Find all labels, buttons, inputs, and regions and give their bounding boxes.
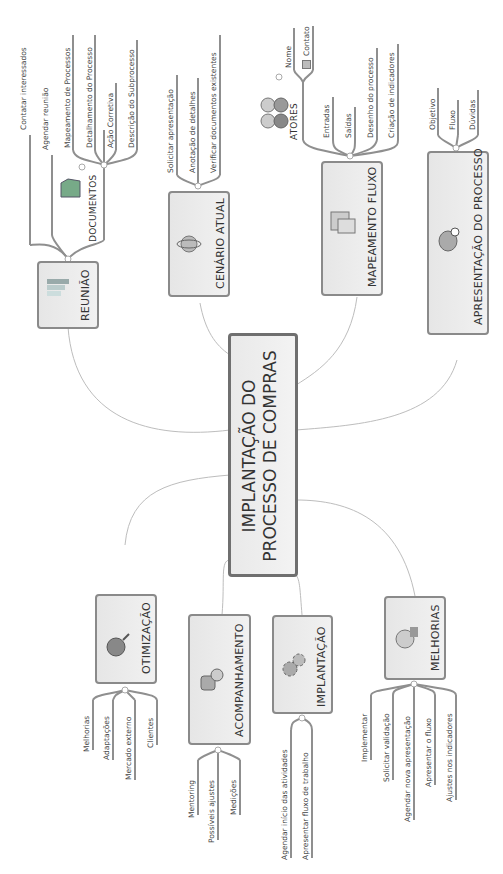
- magnifier-icon: [105, 632, 131, 658]
- subtopic-apresentar-o-fluxo[interactable]: Apresentar o fluxo: [424, 718, 433, 787]
- calendar-icon: [329, 209, 357, 237]
- topic-title: MELHORIAS: [429, 604, 442, 671]
- subtopic-verificar-documentos[interactable]: Verificar documentos existentes: [209, 52, 218, 173]
- subtopic-agendar-nova-apresentacao[interactable]: Agendar nova apresentação: [403, 716, 412, 822]
- folder-icon: [58, 175, 84, 201]
- subtopic-apresentar-fluxo-trabalho[interactable]: Apresentar fluxo de trabalho: [301, 752, 310, 860]
- topic-acompanhamento[interactable]: ACOMPANHAMENTO: [188, 614, 251, 745]
- subtopic-objetivo[interactable]: Objetivo: [428, 99, 437, 130]
- topic-otimizacao[interactable]: OTIMIZAÇÃO: [95, 594, 157, 684]
- subtopic-mentoring[interactable]: Mentoring: [187, 780, 196, 818]
- subtopic-criacao-indicadores[interactable]: Criação de indicadores: [387, 52, 396, 138]
- topic-title: ACOMPANHAMENTO: [233, 624, 246, 738]
- subtopic-clientes[interactable]: Clientes: [146, 718, 155, 748]
- subtopic-agendar-inicio[interactable]: Agendar início das atividades: [280, 749, 289, 860]
- subtopic-mercado-externo[interactable]: Mercado externo: [124, 717, 133, 780]
- subtopic-documentos[interactable]: DOCUMENTOS: [88, 175, 98, 242]
- topic-title: MAPEAMENTO FLUXO: [366, 167, 379, 287]
- central-topic-line2: PROCESSO DE COMPRAS: [260, 346, 281, 566]
- topic-implantacao[interactable]: IMPLANTAÇÃO: [272, 615, 333, 714]
- subtopic-fluxo[interactable]: Fluxo: [448, 110, 457, 130]
- subtopic-anotacao-detalhes[interactable]: Anotação de detalhes: [188, 91, 197, 173]
- subtopic-entradas[interactable]: Entradas: [322, 105, 331, 138]
- subtopic-implementar[interactable]: Implementar: [360, 714, 369, 762]
- topic-title: CENÁRIO ATUAL: [214, 198, 227, 289]
- central-topic-line1: IMPLANTAÇÃO DO: [239, 346, 260, 566]
- topic-title: IMPLANTAÇÃO: [315, 626, 328, 707]
- subtopic-melhorias[interactable]: Melhorias: [82, 716, 91, 752]
- topic-cenario-atual[interactable]: CENÁRIO ATUAL: [168, 191, 230, 297]
- subtopic-saidas[interactable]: Saídas: [344, 113, 353, 138]
- subtopic-descricao-subprocesso[interactable]: Descrição do Subprocesso: [127, 49, 136, 148]
- subtopic-detalhamento-processo[interactable]: Detalhamento do Processo: [85, 47, 94, 148]
- topic-title: REUNIÃO: [79, 269, 92, 321]
- topic-title: OTIMIZAÇÃO: [140, 602, 153, 674]
- subtopic-ajustes-indicadores[interactable]: Ajustes nos indicadores: [445, 713, 454, 802]
- gears-icon: [280, 651, 308, 679]
- person-icon: [437, 225, 463, 253]
- subtopic-agendar-reuniao[interactable]: Agendar reunião: [41, 88, 50, 150]
- subtopic-solicitar-validacao[interactable]: Solicitar validação: [382, 713, 391, 782]
- subtopic-contatar-interessados[interactable]: Contatar interessados: [19, 47, 28, 130]
- subtopic-mapeamento-processos[interactable]: Mapeamento de Processos: [63, 48, 72, 148]
- central-topic[interactable]: IMPLANTAÇÃO DO PROCESSO DE COMPRAS: [228, 333, 298, 577]
- subtopic-desenho-processo[interactable]: Desenho do processo: [366, 57, 375, 138]
- subtopic-solicitar-apresentacao[interactable]: Solicitar apresentação: [166, 89, 175, 173]
- subtopic-medicoes[interactable]: Medições: [229, 780, 238, 815]
- topic-melhorias[interactable]: MELHORIAS: [384, 596, 446, 680]
- subtopic-atores[interactable]: ATORES: [289, 103, 299, 140]
- chart-ball-icon: [394, 624, 420, 650]
- globe-icon: [176, 231, 202, 257]
- users-icon: [198, 666, 226, 694]
- people-icon: [260, 95, 290, 131]
- topic-apresentacao-processo[interactable]: APRESENTAÇÃO DO PROCESSO: [427, 151, 489, 335]
- bar-chart-icon: [45, 275, 71, 301]
- subtopic-possiveis-ajustes[interactable]: Possíveis ajustes: [207, 780, 216, 843]
- subtopic-adaptacoes[interactable]: Adaptações: [102, 716, 111, 760]
- subtopic-duvidas[interactable]: Dúvidas: [468, 100, 477, 130]
- topic-mapeamento-fluxo[interactable]: MAPEAMENTO FLUXO: [321, 161, 383, 296]
- topic-reuniao[interactable]: REUNIÃO: [37, 261, 99, 329]
- contact-card-icon: [302, 60, 311, 69]
- topic-title: APRESENTAÇÃO DO PROCESSO: [472, 148, 485, 325]
- subtopic-contato[interactable]: Contato: [302, 26, 311, 56]
- subtopic-acao-corretiva[interactable]: Ação Corretiva: [106, 93, 115, 148]
- subtopic-nome[interactable]: Nome: [284, 46, 293, 68]
